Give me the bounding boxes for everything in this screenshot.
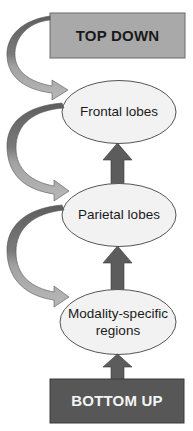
top-down-bottom-up-diagram (0, 0, 193, 431)
top-down-box (50, 13, 185, 58)
parietal-lobes-node (62, 184, 176, 247)
up-arrow-modality-to-parietal (103, 246, 132, 291)
curved-arrow-frontal-to-parietal (7, 103, 69, 201)
up-arrow-parietal-to-frontal (103, 143, 132, 186)
bottom-up-box (50, 379, 184, 423)
curved-arrow-parietal-to-modality (7, 205, 69, 307)
up-arrow-bottom-to-modality (103, 354, 132, 380)
modality-specific-regions-node (60, 290, 176, 355)
frontal-lobes-node (62, 81, 176, 144)
